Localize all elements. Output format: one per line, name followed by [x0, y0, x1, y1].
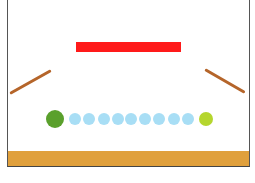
blue-ball[interactable]: [182, 113, 194, 125]
blue-ball[interactable]: [69, 113, 81, 125]
game-scene[interactable]: [7, 0, 250, 167]
blue-ball[interactable]: [83, 113, 95, 125]
blue-ball[interactable]: [139, 113, 151, 125]
blue-ball[interactable]: [153, 113, 165, 125]
ground-bar: [8, 151, 249, 166]
blue-ball[interactable]: [168, 113, 180, 125]
blue-ball[interactable]: [112, 113, 124, 125]
blue-ball[interactable]: [98, 113, 110, 125]
red-static-bar: [76, 42, 181, 52]
blue-ball[interactable]: [125, 113, 137, 125]
target-ball[interactable]: [199, 112, 213, 126]
green-ball[interactable]: [46, 110, 64, 128]
